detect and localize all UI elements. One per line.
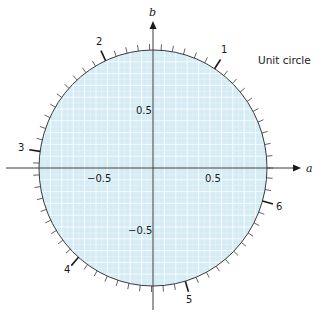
unit-circle-diagram: a b −0.5 0.5 0.5 −0.5 Unit circle 1 2 3 … (0, 0, 323, 317)
angle-label-3: 3 (18, 142, 24, 153)
diagram-title: Unit circle (258, 54, 311, 66)
angle-label-1: 1 (221, 44, 227, 55)
x-tick-pos-half: 0.5 (205, 173, 221, 184)
angle-label-5: 5 (186, 294, 192, 305)
x-tick-neg-half: −0.5 (87, 173, 111, 184)
angle-label-4: 4 (64, 264, 70, 275)
a-axis-label: a (306, 162, 313, 175)
b-axis-arrow-icon (150, 21, 157, 29)
b-axis-label: b (149, 6, 156, 19)
y-tick-neg-half: −0.5 (128, 225, 152, 236)
y-tick-pos-half: 0.5 (136, 105, 152, 116)
angle-label-2: 2 (96, 36, 102, 47)
a-axis-arrow-icon (293, 165, 301, 172)
angle-label-6: 6 (276, 201, 282, 212)
